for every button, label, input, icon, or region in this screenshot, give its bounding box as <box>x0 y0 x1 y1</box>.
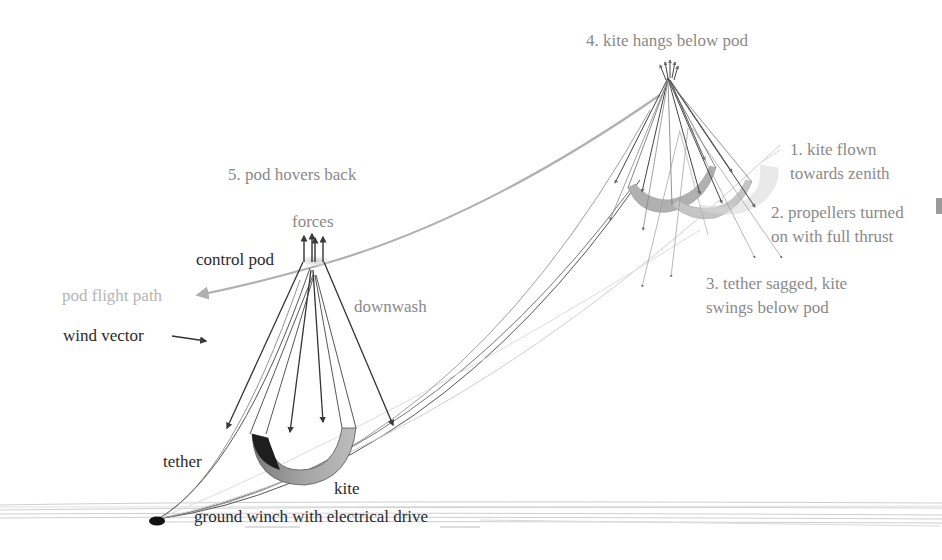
label-step1-line1: 1. kite flown <box>790 139 876 161</box>
label-step2-line2: on with full thrust <box>771 226 893 248</box>
label-step3-line1: 3. tether sagged, kite <box>706 273 847 295</box>
ground-winch <box>149 517 165 526</box>
edge-marker <box>936 198 942 214</box>
label-kite: kite <box>334 478 360 500</box>
label-downwash: downwash <box>354 296 427 318</box>
label-ground-winch: ground winch with electrical drive <box>194 506 428 528</box>
upper-line-fan <box>610 78 782 287</box>
kite-lower <box>252 428 356 485</box>
label-pod-flight-path: pod flight path <box>62 285 162 307</box>
label-forces: forces <box>292 211 334 233</box>
label-wind-vector: wind vector <box>63 325 144 347</box>
label-step1-line2: towards zenith <box>790 163 890 185</box>
label-step4: 4. kite hangs below pod <box>586 30 748 52</box>
label-control-pod: control pod <box>196 249 274 271</box>
ground-surface <box>0 502 942 527</box>
upper-pod-cluster <box>660 60 678 80</box>
label-step5: 5. pod hovers back <box>228 164 356 186</box>
label-tether: tether <box>163 451 202 473</box>
wind-vector-arrow <box>172 336 206 341</box>
label-step2-line1: 2. propellers turned <box>771 202 904 224</box>
label-step3-line2: swings below pod <box>706 297 829 319</box>
